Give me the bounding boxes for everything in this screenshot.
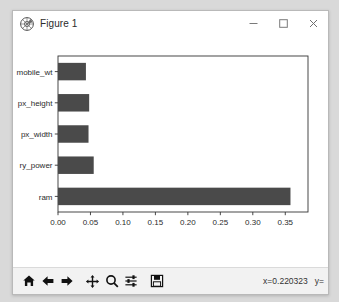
- back-button[interactable]: [38, 272, 57, 291]
- close-icon: [308, 18, 319, 29]
- xtick-label-0.00: 0.00: [50, 218, 66, 227]
- nav-group-tools: [83, 272, 140, 291]
- zoom-magnifier-icon: [105, 274, 119, 288]
- toolbar-separator-2: [140, 272, 147, 291]
- ytick-label-px_height: px_height: [18, 99, 53, 108]
- forward-button[interactable]: [57, 272, 76, 291]
- nav-group-history: [19, 272, 76, 291]
- zoom-button[interactable]: [102, 272, 121, 291]
- window-title: Figure 1: [40, 18, 78, 29]
- forward-arrow-icon: [60, 274, 74, 288]
- window-controls: [238, 11, 328, 36]
- coord-x-value: x=0.220323: [263, 276, 308, 286]
- ytick-label-ram: ram: [39, 193, 53, 202]
- xtick-label-0.20: 0.20: [180, 218, 196, 227]
- configure-subplots-icon: [124, 274, 138, 288]
- home-icon: [22, 274, 36, 288]
- minimize-button[interactable]: [238, 11, 268, 36]
- xtick-label-0.05: 0.05: [83, 218, 99, 227]
- nav-group-save: [147, 272, 166, 291]
- maximize-icon: [278, 18, 289, 29]
- xtick-label-0.10: 0.10: [115, 218, 131, 227]
- bar-chart[interactable]: mobile_wtpx_heightpx_widthry_powerram0.0…: [13, 37, 326, 265]
- ytick-label-battery_power: ry_power: [20, 161, 53, 170]
- ytick-label-mobile_wt: mobile_wt: [16, 68, 53, 77]
- pan-move-icon: [85, 274, 100, 289]
- coord-y-value: y=: [315, 276, 324, 286]
- save-button[interactable]: [147, 272, 166, 291]
- pan-button[interactable]: [83, 272, 102, 291]
- home-button[interactable]: [19, 272, 38, 291]
- matplotlib-icon: [19, 16, 35, 32]
- xtick-label-0.25: 0.25: [213, 218, 229, 227]
- bar-px_width[interactable]: [58, 125, 89, 142]
- ytick-label-px_width: px_width: [21, 130, 53, 139]
- figure-canvas[interactable]: mobile_wtpx_heightpx_widthry_powerram0.0…: [13, 37, 328, 267]
- bar-ram[interactable]: [58, 188, 290, 205]
- back-arrow-icon: [41, 274, 55, 288]
- bar-battery_power[interactable]: [58, 156, 94, 173]
- figure-window: Figure 1: [12, 10, 329, 295]
- screen: Figure 1: [0, 0, 339, 302]
- xtick-label-0.30: 0.30: [245, 218, 261, 227]
- xtick-label-0.15: 0.15: [148, 218, 164, 227]
- close-button[interactable]: [298, 11, 328, 36]
- window-titlebar: Figure 1: [13, 11, 328, 37]
- bar-px_height[interactable]: [58, 94, 89, 111]
- save-floppy-icon: [150, 274, 164, 288]
- toolbar-separator: [76, 272, 83, 291]
- matplotlib-navigation-toolbar: x=0.220323 y=: [13, 267, 328, 294]
- configure-subplots-button[interactable]: [121, 272, 140, 291]
- minimize-icon: [248, 18, 259, 29]
- maximize-button[interactable]: [268, 11, 298, 36]
- cursor-coordinates: x=0.220323 y=: [263, 276, 324, 286]
- bar-mobile_wt[interactable]: [58, 63, 86, 80]
- xtick-label-0.35: 0.35: [277, 218, 293, 227]
